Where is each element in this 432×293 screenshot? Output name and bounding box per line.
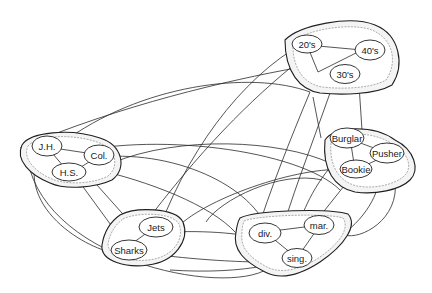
unit-burglar[interactable]: Burglar	[330, 128, 364, 148]
unit-mar-label: mar.	[310, 220, 328, 231]
edge	[313, 97, 321, 138]
unit-jets[interactable]: Jets	[139, 217, 173, 237]
unit-bookie[interactable]: Bookie	[340, 160, 372, 178]
unit-sharks[interactable]: Sharks	[111, 240, 147, 260]
marital-pool: div. mar. sing.	[235, 211, 351, 276]
unit-sing-label: sing.	[287, 253, 307, 264]
occupation-pool: Burglar Pusher Bookie	[325, 128, 415, 193]
unit-hs-label: H.S.	[60, 167, 78, 178]
unit-burglar-label: Burglar	[332, 133, 363, 144]
unit-mar[interactable]: mar.	[304, 216, 334, 235]
unit-pusher-label: Pusher	[372, 148, 402, 159]
edge	[140, 60, 300, 230]
unit-30s[interactable]: 30's	[330, 65, 360, 84]
unit-jets-label: Jets	[147, 222, 165, 233]
unit-40s-label: 40's	[361, 45, 378, 56]
unit-div-label: div.	[258, 228, 272, 239]
unit-20s-label: 20's	[298, 39, 315, 50]
unit-pusher[interactable]: Pusher	[370, 143, 404, 163]
gang-pool: Jets Sharks	[102, 210, 185, 266]
age-pool: 20's 40's 30's	[285, 21, 399, 94]
unit-col-label: Col.	[91, 150, 108, 161]
unit-jh-label: J.H.	[39, 141, 56, 152]
education-pool: J.H. Col. H.S.	[20, 132, 121, 187]
unit-sing[interactable]: sing.	[282, 249, 312, 268]
edge	[62, 82, 310, 143]
unit-20s[interactable]: 20's	[292, 35, 322, 53]
unit-40s[interactable]: 40's	[355, 40, 385, 60]
unit-sharks-label: Sharks	[114, 245, 144, 256]
jets-sharks-network-diagram: 20's 40's 30's J.H. Col. H.S.	[0, 0, 432, 293]
unit-col[interactable]: Col.	[84, 145, 114, 165]
unit-jh[interactable]: J.H.	[32, 136, 62, 156]
unit-bookie-label: Bookie	[341, 164, 370, 175]
unit-div[interactable]: div.	[249, 223, 281, 243]
unit-30s-label: 30's	[336, 69, 353, 80]
edge	[112, 144, 330, 163]
unit-hs[interactable]: H.S.	[52, 163, 86, 181]
